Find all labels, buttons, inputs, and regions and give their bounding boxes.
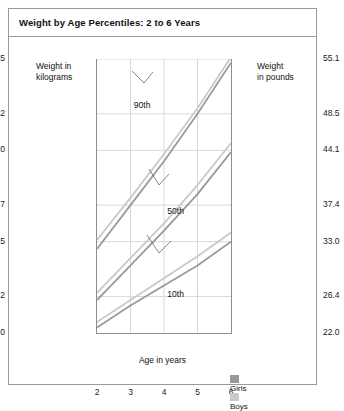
y-axis-label-left-line2: kilograms (36, 72, 92, 83)
y-axis-label-left-line1: Weight in (36, 61, 92, 72)
y-tick-left: 10 (0, 327, 5, 337)
x-tick: 4 (157, 387, 171, 397)
annotation-leader-line (132, 71, 144, 83)
chart-svg (97, 59, 231, 333)
y-axis-label-right: Weight in pounds (257, 61, 309, 83)
y-tick-left: 25 (0, 53, 5, 63)
annotation-90th: 90th (134, 100, 151, 110)
x-axis (96, 333, 232, 334)
title-divider (9, 36, 316, 37)
legend-item: Boys (230, 393, 248, 411)
chart-title: Weight by Age Percentiles: 2 to 6 Years (19, 17, 200, 28)
y-tick-right: 22.0 (323, 327, 344, 337)
legend-swatch (230, 375, 239, 383)
y-axis-label-right-line1: Weight (257, 61, 309, 72)
legend-swatch (230, 393, 239, 401)
y-tick-right: 55.1 (323, 53, 344, 63)
y-tick-left: 15 (0, 236, 5, 246)
y-tick-left: 20 (0, 144, 5, 154)
annotation-10th: 10th (167, 289, 184, 299)
x-axis-label: Age in years (9, 355, 316, 365)
annotation-50th: 50th (167, 206, 184, 216)
x-tick: 2 (90, 387, 104, 397)
y-axis-label-left: Weight in kilograms (36, 61, 92, 83)
y-axis-left (96, 59, 97, 334)
y-tick-right: 26.4 (323, 290, 344, 300)
y-tick-left: 12 (0, 290, 5, 300)
legend: GirlsBoys (230, 375, 257, 411)
legend-label: Boys (230, 402, 248, 411)
annotation-leader-line (144, 72, 153, 83)
x-tick: 3 (124, 387, 138, 397)
legend-label: Girls (230, 384, 246, 393)
annotation-leader-line (159, 241, 171, 253)
y-tick-left: 22 (0, 108, 5, 118)
x-tick: 5 (191, 387, 205, 397)
y-tick-right: 44.1 (323, 144, 344, 154)
y-tick-left: 17 (0, 199, 5, 209)
y-axis-label-right-line2: in pounds (257, 72, 309, 83)
y-axis-right (231, 59, 232, 334)
y-tick-right: 37.4 (323, 199, 344, 209)
y-tick-right: 33.0 (323, 236, 344, 246)
legend-item: Girls (230, 375, 248, 393)
y-tick-right: 48.5 (323, 108, 344, 118)
chart-card: Weight by Age Percentiles: 2 to 6 Years … (8, 8, 317, 385)
plot-area: 10121517202225 22.026.433.037.444.148.55… (97, 59, 231, 333)
annotation-leader-line (149, 169, 159, 185)
